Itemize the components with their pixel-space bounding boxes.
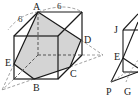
label-E2: E — [114, 51, 120, 62]
label-D: D — [84, 34, 91, 45]
dim-left: 6 — [18, 14, 23, 24]
label-J: J — [114, 24, 118, 35]
second-figure-dashed — [111, 60, 138, 82]
dim-top: 6 — [57, 1, 62, 11]
label-P: P — [106, 86, 112, 97]
label-G: G — [124, 86, 131, 97]
label-A: A — [33, 1, 41, 12]
label-E: E — [5, 57, 11, 68]
label-B: B — [33, 82, 40, 93]
cube-diagram: A D C B E 6 6 J E P G — [0, 0, 138, 99]
label-C: C — [70, 68, 77, 79]
